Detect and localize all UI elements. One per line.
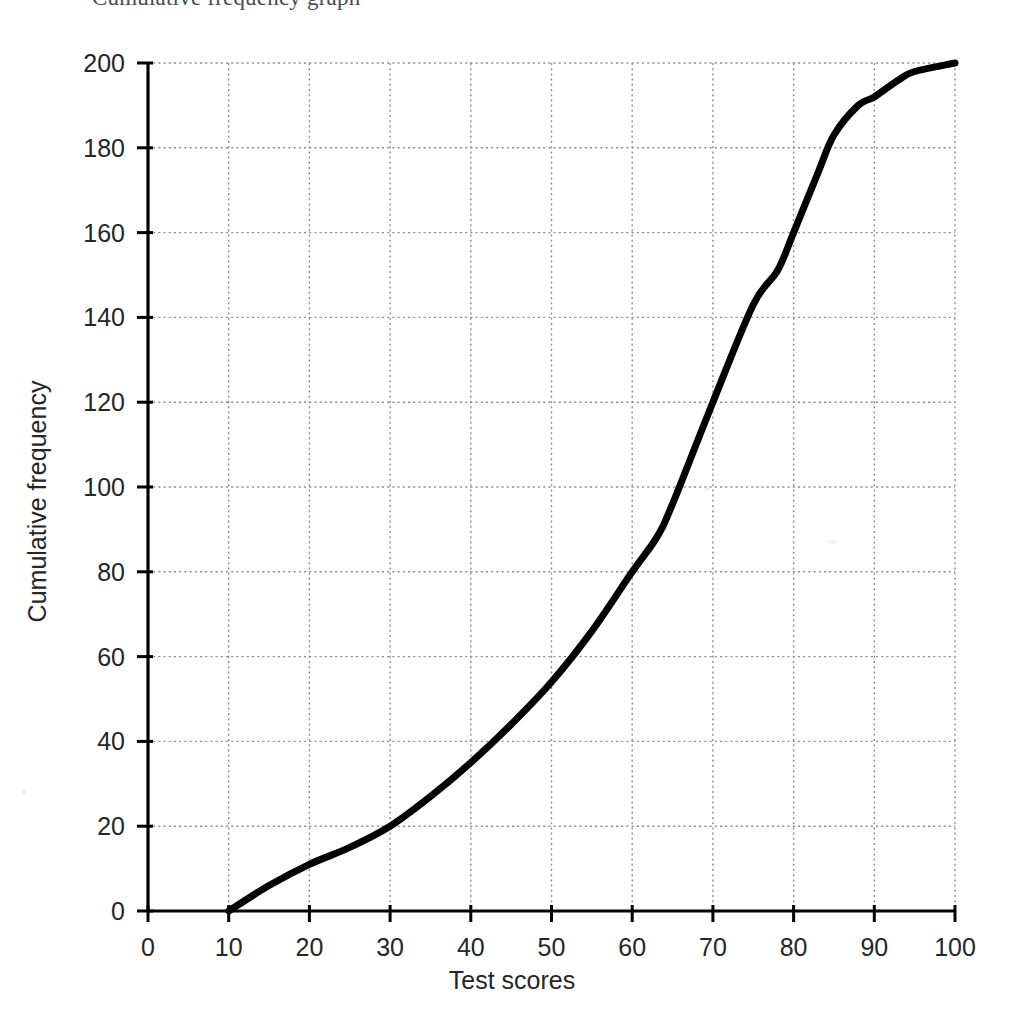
x-tick-label: 90 xyxy=(860,935,888,960)
x-tick-label: 60 xyxy=(618,935,646,960)
tickmarks-group xyxy=(137,63,955,922)
y-tick-label: 20 xyxy=(13,814,125,839)
x-tick-label: 80 xyxy=(780,935,808,960)
y-tick-label: 40 xyxy=(13,729,125,754)
y-tick-label: 0 xyxy=(13,899,125,924)
x-tick-label: 30 xyxy=(376,935,404,960)
cumulative-frequency-chart: 020406080100120140160180200 010203040506… xyxy=(0,0,1024,1032)
chart-canvas xyxy=(0,0,1024,1032)
x-tick-label: 40 xyxy=(457,935,485,960)
x-tick-label: 0 xyxy=(141,935,155,960)
gridlines-group xyxy=(148,63,955,911)
y-tick-label: 200 xyxy=(13,51,125,76)
x-tick-label: 10 xyxy=(215,935,243,960)
y-axis-title: Cumulative frequency xyxy=(23,352,52,652)
y-tick-label: 140 xyxy=(13,305,125,330)
x-tick-label: 20 xyxy=(295,935,323,960)
x-axis-title: Test scores xyxy=(0,966,1024,995)
y-tick-label: 160 xyxy=(13,220,125,245)
scan-speckle xyxy=(22,790,26,795)
x-tick-label: 50 xyxy=(538,935,566,960)
scan-speckle xyxy=(828,540,837,544)
scan-speckle xyxy=(705,487,710,491)
x-tick-label: 70 xyxy=(699,935,727,960)
chart-page: Cumulative frequency graph 0204060801001… xyxy=(0,0,1024,1032)
y-tick-label: 180 xyxy=(13,135,125,160)
x-tick-label: 100 xyxy=(934,935,976,960)
